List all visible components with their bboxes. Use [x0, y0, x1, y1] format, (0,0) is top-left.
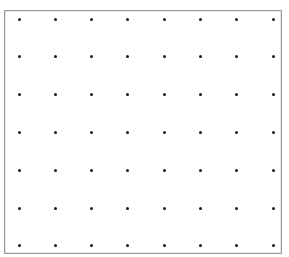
grid-dot [18, 55, 21, 58]
grid-dot [163, 131, 166, 134]
grid-dot [272, 169, 275, 172]
grid-dot [163, 207, 166, 210]
grid-dot [90, 131, 93, 134]
grid-dot [272, 93, 275, 96]
grid-dot [272, 207, 275, 210]
grid-dot [272, 18, 275, 21]
grid-dot [235, 207, 238, 210]
grid-dot [272, 131, 275, 134]
grid-dot [163, 169, 166, 172]
grid-dot [54, 18, 57, 21]
grid-dot [199, 207, 202, 210]
grid-dot [54, 207, 57, 210]
grid-dot [199, 169, 202, 172]
grid-dot [235, 18, 238, 21]
grid-dot [90, 169, 93, 172]
grid-dot [18, 207, 21, 210]
grid-dot [54, 169, 57, 172]
grid-dot [18, 169, 21, 172]
grid-dot [18, 18, 21, 21]
grid-dot [18, 131, 21, 134]
grid-dot [199, 131, 202, 134]
grid-dot [54, 131, 57, 134]
grid-dot [272, 55, 275, 58]
grid-dot [90, 207, 93, 210]
grid-dot [199, 18, 202, 21]
grid-dot [18, 93, 21, 96]
dot-grid-frame [4, 10, 282, 254]
grid-dot [54, 93, 57, 96]
grid-dot [90, 18, 93, 21]
grid-dot [163, 93, 166, 96]
grid-dot [272, 244, 275, 247]
grid-dot [18, 244, 21, 247]
grid-dot [163, 18, 166, 21]
